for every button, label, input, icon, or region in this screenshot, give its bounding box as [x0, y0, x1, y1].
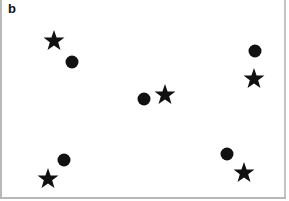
star-marker-icon — [234, 162, 255, 182]
circle-marker-icon — [138, 93, 151, 106]
star-marker-icon — [38, 168, 59, 188]
star-marker-icon — [44, 30, 65, 50]
diagram-panel: b — [0, 0, 289, 201]
circle-marker-icon — [249, 45, 262, 58]
circle-marker-icon — [58, 154, 71, 167]
marker-canvas — [0, 0, 289, 201]
circle-marker-icon — [66, 56, 79, 69]
star-marker-icon — [244, 68, 265, 88]
circle-marker-icon — [221, 148, 234, 161]
star-marker-icon — [155, 84, 176, 104]
